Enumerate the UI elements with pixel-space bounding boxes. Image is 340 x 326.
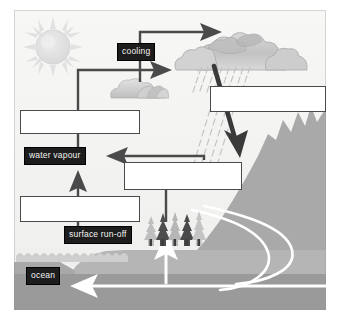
label-cooling: cooling	[118, 44, 154, 60]
label-ocean: ocean	[27, 268, 59, 284]
label-surface-run-off: surface run-off	[65, 227, 131, 243]
trees-icon	[140, 206, 212, 246]
diagram-canvas: cooling water vapour surface run-off oce…	[14, 10, 326, 310]
answer-box-1[interactable]	[20, 110, 140, 134]
answer-box-4[interactable]	[20, 196, 140, 222]
answer-box-2[interactable]	[210, 86, 326, 112]
label-water-vapour: water vapour	[25, 148, 85, 164]
water-cycle-diagram: cooling water vapour surface run-off oce…	[0, 0, 340, 326]
answer-box-3[interactable]	[124, 162, 242, 190]
